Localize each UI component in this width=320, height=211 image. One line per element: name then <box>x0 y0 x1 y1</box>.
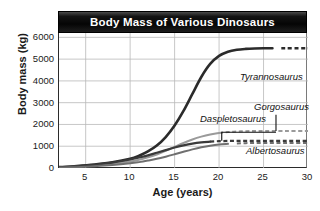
chart-figure: Body Mass of Various Dinosaurs Body mass… <box>0 0 320 211</box>
y-tick-label: 6000 <box>20 32 54 42</box>
x-tick-label: 30 <box>294 172 320 182</box>
y-tick-label: 0 <box>20 163 54 173</box>
y-tick-label: 1000 <box>20 141 54 151</box>
series-label-gorgosaurus: Gorgosaurus <box>254 101 309 112</box>
x-tick-label: 15 <box>161 172 187 182</box>
x-axis-label: Age (years) <box>58 186 307 198</box>
y-tick-label: 2000 <box>20 119 54 129</box>
chart-title-banner: Body Mass of Various Dinosaurs <box>58 11 307 33</box>
chart-title: Body Mass of Various Dinosaurs <box>90 16 275 28</box>
series-label-daspletosaurus: Daspletosaurus <box>200 113 266 124</box>
series-dashed-daspletosaurus <box>210 141 308 142</box>
x-tick-label: 25 <box>250 172 276 182</box>
y-tick-label: 3000 <box>20 98 54 108</box>
leader-line-daspletosaurus <box>222 132 276 140</box>
x-tick-label: 5 <box>72 172 98 182</box>
y-tick-label: 4000 <box>20 76 54 86</box>
series-label-albertosaurus: Albertosaurus <box>246 145 305 156</box>
x-tick-label: 10 <box>116 172 142 182</box>
series-label-tyrannosaurus: Tyrannosaurus <box>240 71 303 82</box>
x-tick-label: 20 <box>205 172 231 182</box>
y-tick-label: 5000 <box>20 54 54 64</box>
